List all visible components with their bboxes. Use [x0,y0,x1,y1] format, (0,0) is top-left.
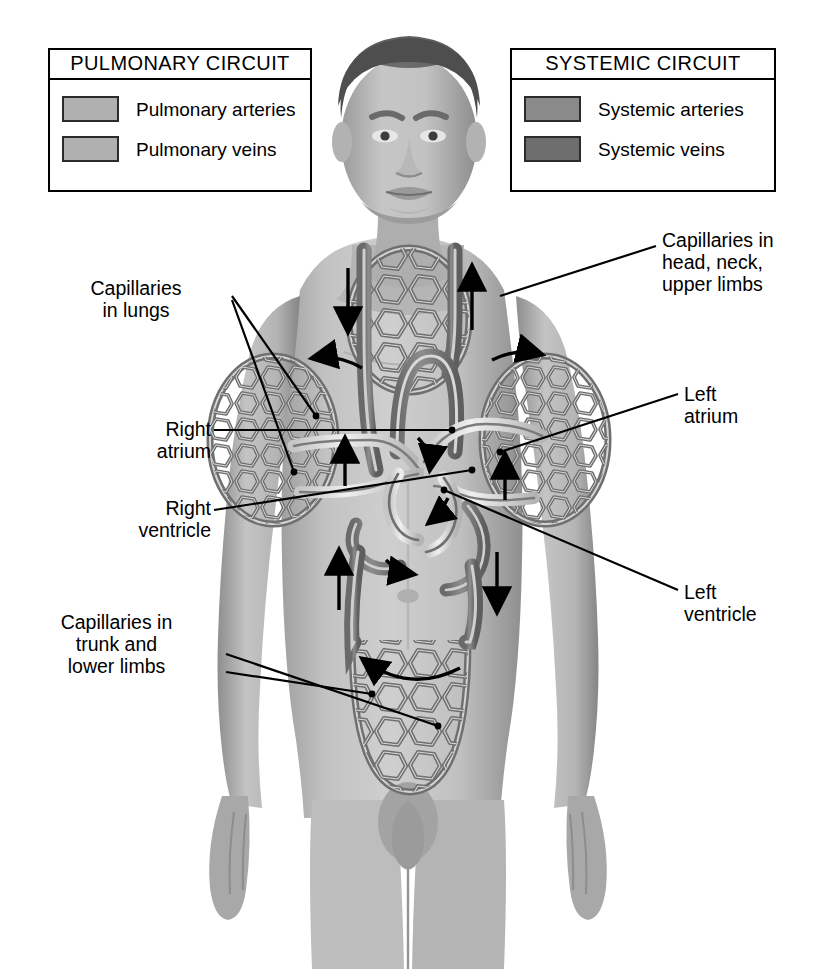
legend-row-systemic-arteries: Systemic arteries [512,89,774,129]
swatch-systemic-arteries [524,96,581,122]
legend-row-pulmonary-veins: Pulmonary veins [50,129,310,169]
legend-label-systemic-veins: Systemic veins [598,140,725,159]
callout-capillaries-in-lungs: Capillaries in lungs [46,277,226,321]
legend-label-systemic-arteries: Systemic arteries [598,100,744,119]
swatch-systemic-veins [524,136,581,162]
legend-systemic-circuit: SYSTEMIC CIRCUIT Systemic arteries Syste… [510,48,776,192]
legend-systemic-title: SYSTEMIC CIRCUIT [512,50,774,80]
legend-pulmonary-title: PULMONARY CIRCUIT [50,50,310,80]
diagram-canvas: PULMONARY CIRCUIT Pulmonary arteries Pul… [0,0,816,969]
callout-capillaries-head-neck-upper-limbs: Capillaries in head, neck, upper limbs [662,229,812,295]
legend-row-pulmonary-arteries: Pulmonary arteries [50,89,310,129]
swatch-pulmonary-veins [62,136,119,162]
swatch-pulmonary-arteries [62,96,119,122]
callout-right-atrium: Right atrium [36,418,211,462]
legend-label-pulmonary-arteries: Pulmonary arteries [136,100,295,119]
legend-pulmonary-circuit: PULMONARY CIRCUIT Pulmonary arteries Pul… [48,48,312,192]
callout-capillaries-trunk-lower-limbs: Capillaries in trunk and lower limbs [14,611,219,677]
callout-left-ventricle: Left ventricle [684,581,814,625]
callout-right-ventricle: Right ventricle [36,497,211,541]
callout-left-atrium: Left atrium [684,383,814,427]
legend-label-pulmonary-veins: Pulmonary veins [136,140,276,159]
legend-row-systemic-veins: Systemic veins [512,129,774,169]
